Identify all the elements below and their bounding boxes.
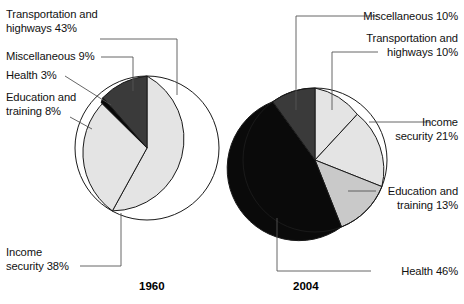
label-2004-miscellaneous: Miscellaneous 10% (363, 9, 458, 23)
year-label-1960: 1960 (139, 280, 165, 292)
label-2004-education-line2: training 13% (397, 198, 458, 212)
pie-1960 (75, 76, 219, 220)
label-2004-income-line2: security 21% (395, 129, 458, 143)
label-1960-education-line1: Education and (6, 90, 76, 104)
label-2004-education-line1: Education and (388, 184, 458, 198)
label-2004-transportation-line2: highways 10% (387, 45, 458, 59)
label-1960-income-line2: security 38% (6, 259, 69, 273)
leader-1960-income (80, 213, 121, 266)
label-1960-income-line1: Income (6, 245, 42, 259)
pie-2004 (227, 88, 387, 241)
label-1960-transportation-line2: highways 43% (6, 21, 77, 35)
label-2004-transportation-line1: Transportation and (366, 31, 458, 45)
label-2004-income-line1: Income (422, 115, 458, 129)
label-1960-education-line2: training 8% (6, 104, 61, 118)
year-label-2004: 2004 (293, 280, 319, 292)
label-2004-health: Health 46% (401, 264, 458, 278)
label-1960-health: Health 3% (6, 68, 57, 82)
label-1960-transportation-line1: Transportation and (6, 7, 98, 21)
label-1960-miscellaneous: Miscellaneous 9% (6, 49, 95, 63)
